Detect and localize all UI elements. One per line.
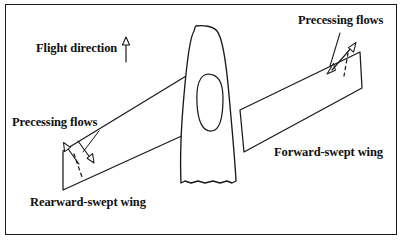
right-wing-panel xyxy=(240,52,362,152)
precessing-flows-left-label: Precessing flows xyxy=(12,116,97,129)
rearward-swept-wing-label: Rearward-swept wing xyxy=(30,196,146,209)
figure-container: Flight direction Precessing flows Preces… xyxy=(0,0,405,243)
canopy-oval xyxy=(197,74,223,131)
flight-direction-arrow-icon xyxy=(122,37,129,62)
flight-direction-label: Flight direction xyxy=(36,42,117,55)
precessing-flows-right-label: Precessing flows xyxy=(298,14,383,27)
forward-swept-wing-label: Forward-swept wing xyxy=(274,146,383,159)
